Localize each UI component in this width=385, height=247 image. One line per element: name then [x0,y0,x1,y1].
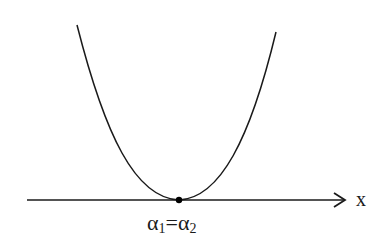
x-axis-label: x [356,188,366,210]
parabola-curve [77,25,276,200]
parabola-diagram: x α1=α2 [0,0,385,247]
alpha2-subscript: 2 [189,221,196,236]
equals-sign: = [166,210,178,235]
alpha1-symbol: α [147,210,159,235]
alpha2-symbol: α [178,210,190,235]
double-root-point [176,197,182,203]
alpha1-subscript: 1 [159,221,166,236]
root-label: α1=α2 [147,210,196,236]
